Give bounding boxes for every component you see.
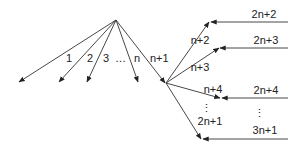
label-n-plus-2: n+2: [191, 34, 210, 46]
label-2n-plus-3: 2n+3: [254, 34, 279, 46]
label-ellipsis: …: [115, 52, 126, 64]
label-1: 1: [66, 52, 72, 64]
label-3: 3: [103, 52, 109, 64]
label-2: 2: [87, 52, 93, 64]
label-2n-plus-1: 2n+1: [198, 115, 223, 127]
label-n-plus-3: n+3: [191, 61, 210, 73]
edge-n: [116, 20, 138, 82]
label-hub-vdots: ⋮: [201, 102, 212, 114]
label-n-plus-4: n+4: [204, 83, 223, 95]
label-incoming-vdots: ⋮: [254, 107, 265, 119]
diagram-canvas: 1 2 3 … n n+1 n+2 n+3 n+4 ⋮ 2n+1 2n+2 2n…: [0, 0, 305, 154]
label-2n-plus-4: 2n+4: [254, 84, 279, 96]
label-n-plus-1: n+1: [150, 52, 169, 64]
label-2n-plus-2: 2n+2: [252, 8, 277, 20]
label-n: n: [134, 52, 140, 64]
label-3n-plus-1: 3n+1: [253, 124, 278, 136]
edge-n-plus-2: [166, 22, 209, 83]
